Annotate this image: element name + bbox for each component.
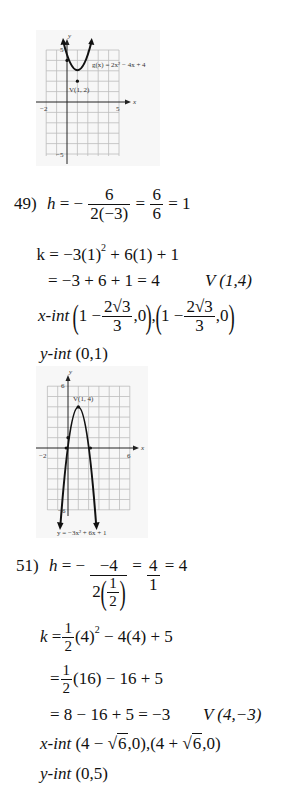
fraction: −4 2(12) [90, 557, 127, 610]
svg-text:−2: −2 [40, 105, 48, 113]
fraction: 6 2(−3) [88, 186, 130, 224]
fraction: 2√33 [102, 298, 132, 336]
problem-49-vertex: V (1,4) [205, 272, 252, 289]
fraction: 4 1 [147, 557, 160, 595]
svg-text:y: y [67, 32, 72, 40]
svg-text:−6: −6 [58, 507, 66, 515]
svg-text:x: x [140, 444, 145, 452]
problem-51-k-line-1: k =12(4)2 − 4(4) + 5 [40, 621, 173, 654]
svg-text:5: 5 [116, 105, 120, 113]
parabola-graph-2: y x −2 6 6 −6 V(1, 4) y = −3x² + 6x + 1 [36, 366, 148, 538]
fraction: 12 [62, 621, 74, 654]
sqrt: √6 [108, 735, 128, 752]
problem-49-k-line-1: kk = −3(1)2 + 6(1) + 1 [38, 243, 179, 263]
svg-text:g(x) = 2x² − 4x + 4: g(x) = 2x² − 4x + 4 [92, 61, 146, 69]
problem-49-k-line-2: = −3 + 6 + 1 = 4 [48, 272, 160, 289]
svg-text:6: 6 [127, 452, 131, 460]
svg-text:5: 5 [60, 46, 64, 54]
svg-text:y: y [68, 368, 73, 376]
fraction: 2√33 [184, 298, 214, 336]
svg-text:6: 6 [61, 382, 65, 390]
problem-51-y-intercept: y-int (0,5) [40, 765, 108, 782]
problem-49-h-line: 49) h = − 6 2(−3) = 6 6 = 1 [14, 186, 190, 224]
problem-51-vertex: V (4,−3) [203, 706, 261, 723]
problem-51-x-intercepts: x-int (4 − √6,0),(4 + √6,0) [40, 735, 221, 752]
svg-text:−5: −5 [56, 151, 64, 159]
problem-49-x-intercepts: x-int (1 −2√33,0),(1 −2√33,0) [38, 298, 234, 336]
svg-text:V(1, 4): V(1, 4) [73, 395, 94, 403]
problem-49-y-intercept: y-int (0,1) [40, 345, 108, 362]
svg-text:V(1, 2): V(1, 2) [69, 86, 90, 94]
problem-number: 49) [14, 194, 37, 213]
graph-1: y x −2 5 5 −5 V(1, 2) g(x) = 2x² − 4x + … [36, 30, 160, 166]
fraction: 12 [61, 663, 73, 696]
problem-51-k-line-3: = 8 − 16 + 5 = −3 [50, 706, 170, 723]
problem-number: 51) [16, 556, 39, 575]
svg-text:y = −3x² + 6x + 1: y = −3x² + 6x + 1 [57, 529, 107, 537]
parabola-graph-1: y x −2 5 5 −5 V(1, 2) g(x) = 2x² − 4x + … [36, 30, 160, 166]
problem-51-h-line: 51) h = − −4 2(12) = 4 1 = 4 [16, 557, 187, 610]
svg-text:x: x [132, 98, 137, 106]
problem-51-k-line-2: =12(16) − 16 + 5 [50, 663, 163, 696]
sqrt: √6 [182, 735, 202, 752]
svg-text:−2: −2 [39, 452, 47, 460]
graph-2: y x −2 6 6 −6 V(1, 4) y = −3x² + 6x + 1 [36, 366, 148, 538]
fraction: 6 6 [150, 186, 163, 224]
